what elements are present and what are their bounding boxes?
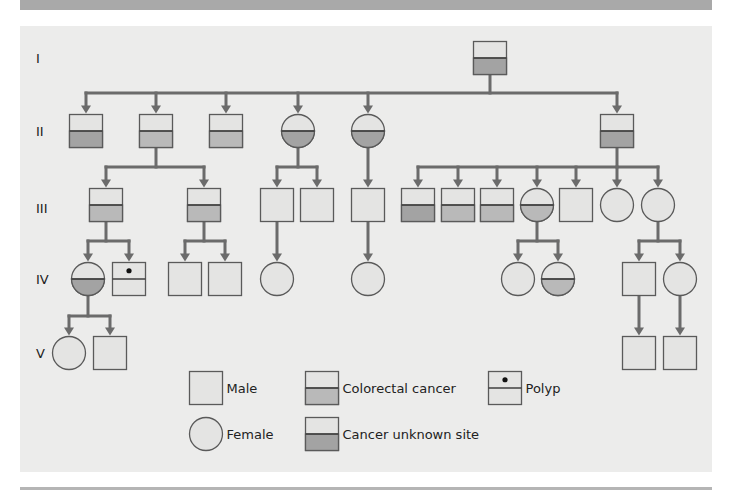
person-female-unaffected xyxy=(601,189,634,222)
person-male-colorectal xyxy=(90,189,123,222)
affected-fill xyxy=(402,205,435,222)
arrowhead-icon xyxy=(453,180,463,188)
arrowhead-icon xyxy=(81,106,91,114)
affected-fill xyxy=(352,131,385,148)
legend-label: Polyp xyxy=(526,381,561,396)
arrowhead-icon xyxy=(612,106,622,114)
person-female-colorectal xyxy=(521,189,554,222)
male-square-icon xyxy=(623,337,656,370)
person-male-unknown_site xyxy=(474,42,507,75)
legend: MaleFemaleColorectal cancerCancer unknow… xyxy=(190,372,561,451)
arrowhead-icon xyxy=(312,180,322,188)
legend-symbol-unknown_site-male xyxy=(306,418,339,451)
person-female-unaffected xyxy=(642,189,675,222)
female-circle-icon xyxy=(190,418,223,451)
female-circle-icon xyxy=(53,337,86,370)
male-square-icon xyxy=(560,189,593,222)
person-female-colorectal xyxy=(542,263,575,296)
person-female-unaffected xyxy=(502,263,535,296)
arrowhead-icon xyxy=(199,180,209,188)
person-male-unknown_site xyxy=(70,115,103,148)
arrowhead-icon xyxy=(492,180,502,188)
female-circle-icon xyxy=(601,189,634,222)
arrowhead-icon xyxy=(612,180,622,188)
arrowhead-icon xyxy=(363,106,373,114)
arrowhead-icon xyxy=(124,254,134,262)
generation-labels: IIIIIIIVV xyxy=(36,51,49,361)
generation-label: IV xyxy=(36,272,49,287)
arrowhead-icon xyxy=(220,254,230,262)
legend-label: Female xyxy=(227,427,274,442)
affected-fill xyxy=(521,205,554,222)
person-male-unaffected xyxy=(560,189,593,222)
person-female-unaffected xyxy=(261,263,294,296)
person-male-unaffected xyxy=(623,337,656,370)
arrowhead-icon xyxy=(151,106,161,114)
female-circle-icon xyxy=(352,263,385,296)
arrowhead-icon xyxy=(272,180,282,188)
legend-label: Colorectal cancer xyxy=(343,381,457,396)
arrowhead-icon xyxy=(83,254,93,262)
affected-fill xyxy=(442,205,475,222)
person-male-unaffected xyxy=(169,263,202,296)
person-male-unaffected xyxy=(301,189,334,222)
arrowhead-icon xyxy=(532,180,542,188)
arrowhead-icon xyxy=(293,106,303,114)
arrowhead-icon xyxy=(363,254,373,262)
affected-fill xyxy=(481,205,514,222)
person-female-unknown_site xyxy=(352,115,385,148)
affected-fill xyxy=(72,279,105,296)
arrowhead-icon xyxy=(221,106,231,114)
affected-fill xyxy=(306,434,339,451)
arrowhead-icon xyxy=(513,254,523,262)
person-female-unknown_site xyxy=(72,263,105,296)
person-female-unaffected xyxy=(53,337,86,370)
person-male-colorectal xyxy=(210,115,243,148)
generation-label: V xyxy=(36,346,45,361)
male-square-icon xyxy=(169,263,202,296)
person-female-unknown_site xyxy=(282,115,315,148)
generation-label: II xyxy=(36,124,44,139)
legend-symbol-colorectal-male xyxy=(306,372,339,405)
person-male-unaffected xyxy=(209,263,242,296)
female-circle-icon xyxy=(642,189,675,222)
male-square-icon xyxy=(209,263,242,296)
legend-label: Cancer unknown site xyxy=(343,427,480,442)
arrowhead-icon xyxy=(675,254,685,262)
legend-symbol-unaffected-female xyxy=(190,418,223,451)
arrowhead-icon xyxy=(101,180,111,188)
person-female-unaffected xyxy=(664,263,697,296)
affected-fill xyxy=(70,131,103,148)
arrowhead-icon xyxy=(363,180,373,188)
affected-fill xyxy=(306,388,339,405)
affected-fill xyxy=(282,131,315,148)
female-circle-icon xyxy=(664,263,697,296)
legend-label: Male xyxy=(227,381,258,396)
arrowhead-icon xyxy=(634,254,644,262)
person-male-unknown_site xyxy=(402,189,435,222)
affected-fill xyxy=(474,58,507,75)
person-male-colorectal xyxy=(481,189,514,222)
arrowhead-icon xyxy=(413,180,423,188)
arrowhead-icon xyxy=(180,254,190,262)
arrowhead-icon xyxy=(272,254,282,262)
male-square-icon xyxy=(261,189,294,222)
person-male-unaffected xyxy=(261,189,294,222)
polyp-dot-icon xyxy=(126,268,131,273)
affected-fill xyxy=(601,131,634,148)
affected-fill xyxy=(140,131,173,148)
person-male-colorectal xyxy=(442,189,475,222)
female-circle-icon xyxy=(261,263,294,296)
arrowhead-icon xyxy=(64,328,74,336)
male-square-icon xyxy=(190,372,223,405)
male-square-icon xyxy=(301,189,334,222)
affected-fill xyxy=(542,279,575,296)
generation-label: III xyxy=(36,201,48,216)
person-female-unaffected xyxy=(352,263,385,296)
person-male-unaffected xyxy=(352,189,385,222)
affected-fill xyxy=(90,205,123,222)
legend-symbol-unaffected-male xyxy=(190,372,223,405)
polyp-dot-icon xyxy=(502,377,507,382)
person-male-unknown_site xyxy=(601,115,634,148)
affected-fill xyxy=(188,205,221,222)
